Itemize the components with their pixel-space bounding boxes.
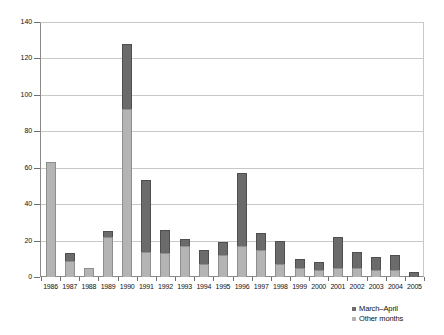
bar-1987 (65, 253, 75, 277)
x-axis-tick (98, 277, 99, 281)
y-axis-tick (34, 204, 40, 205)
legend-label: March–April (359, 304, 398, 314)
y-axis-label: 60 (2, 164, 32, 171)
bar-segment-march-april (256, 233, 266, 249)
bar-segment-march-april (352, 252, 362, 268)
y-axis-tick (34, 277, 40, 278)
bar-segment-march-april (237, 173, 247, 246)
bar-1988 (84, 268, 94, 277)
x-axis-tick (175, 277, 176, 281)
legend-label: Other months (359, 314, 403, 324)
bar-segment-other-months (199, 264, 209, 277)
bar-segment-other-months (256, 250, 266, 277)
bar-2000 (314, 262, 324, 277)
bar-segment-other-months (141, 252, 151, 278)
bar-segment-other-months (160, 253, 170, 277)
bar-segment-march-april (218, 242, 228, 255)
bar-segment-other-months (122, 109, 132, 277)
bar-2001 (333, 237, 343, 277)
bar-segment-other-months (333, 268, 343, 277)
bar-segment-other-months (218, 255, 228, 277)
bar-segment-march-april (65, 253, 75, 260)
x-axis-tick (290, 277, 291, 281)
bar-segment-march-april (160, 230, 170, 254)
bar-segment-other-months (65, 261, 75, 277)
x-axis-tick (213, 277, 214, 281)
bar-segment-march-april (333, 237, 343, 268)
bar-segment-other-months (103, 237, 113, 277)
y-axis-tick (34, 22, 40, 23)
y-axis-label: 100 (2, 91, 32, 98)
x-axis-tick (118, 277, 119, 281)
bar-2004 (390, 255, 400, 277)
chart-legend: March–April Other months (352, 304, 403, 324)
x-axis-tick (233, 277, 234, 281)
bar-segment-march-april (390, 255, 400, 270)
x-axis-tick (328, 277, 329, 281)
x-axis-tick (405, 277, 406, 281)
y-axis-tick (34, 131, 40, 132)
bar-series-layer (41, 22, 424, 277)
y-axis-tick (34, 168, 40, 169)
bar-segment-other-months (275, 264, 285, 277)
bar-segment-march-april (371, 257, 381, 270)
bar-segment-march-april (275, 241, 285, 265)
bar-segment-other-months (237, 246, 247, 277)
y-axis-label: 0 (2, 273, 32, 280)
bar-segment-march-april (199, 250, 209, 265)
x-axis-tick (347, 277, 348, 281)
bar-segment-other-months (371, 270, 381, 277)
bar-1986 (46, 162, 56, 277)
legend-item-other-months: Other months (352, 314, 403, 324)
bar-1990 (122, 44, 132, 277)
bar-segment-march-april (141, 180, 151, 251)
y-axis-tick (34, 95, 40, 96)
bar-1994 (199, 250, 209, 277)
y-axis-tick (34, 241, 40, 242)
x-axis-tick (252, 277, 253, 281)
bar-1998 (275, 241, 285, 277)
y-axis-label: 40 (2, 200, 32, 207)
bar-chart: 020406080100120140 198619871988198919901… (0, 0, 444, 335)
bar-1996 (237, 173, 247, 277)
legend-swatch-icon (352, 307, 356, 311)
bar-1997 (256, 233, 266, 277)
bar-segment-other-months (46, 162, 56, 277)
bar-1995 (218, 242, 228, 277)
x-axis-tick (271, 277, 272, 281)
y-axis-label: 140 (2, 18, 32, 25)
bar-segment-march-april (409, 272, 419, 277)
bar-2005 (409, 272, 419, 277)
bar-segment-other-months (314, 270, 324, 277)
x-axis-tick (309, 277, 310, 281)
bar-segment-march-april (122, 44, 132, 110)
x-axis-tick (60, 277, 61, 281)
x-axis-label-2005: 2005 (401, 283, 427, 291)
y-axis-label: 20 (2, 237, 32, 244)
bar-1999 (295, 259, 305, 277)
bar-1993 (180, 239, 190, 277)
bar-segment-other-months (180, 246, 190, 277)
bar-1991 (141, 180, 151, 277)
legend-item-march-april: March–April (352, 304, 403, 314)
bar-segment-other-months (390, 270, 400, 277)
y-axis-tick (34, 58, 40, 59)
x-axis-tick (367, 277, 368, 281)
bar-2003 (371, 257, 381, 277)
bar-segment-other-months (295, 268, 305, 277)
x-axis-tick (79, 277, 80, 281)
x-axis-tick (194, 277, 195, 281)
bar-1992 (160, 230, 170, 277)
bar-segment-march-april (295, 259, 305, 268)
bar-2002 (352, 252, 362, 277)
x-axis-tick (137, 277, 138, 281)
x-axis-tick (386, 277, 387, 281)
bar-1989 (103, 231, 113, 277)
bar-segment-other-months (84, 268, 94, 277)
x-axis-tick (424, 277, 425, 281)
legend-swatch-icon (352, 317, 356, 321)
bar-segment-march-april (180, 239, 190, 246)
y-axis-label: 120 (2, 54, 32, 61)
y-axis-label: 80 (2, 127, 32, 134)
x-axis-tick (41, 277, 42, 281)
